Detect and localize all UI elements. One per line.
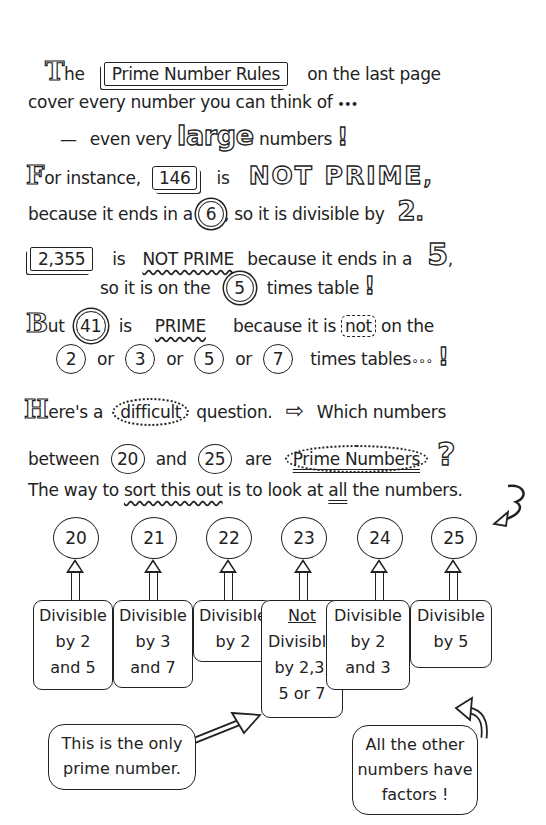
example-146: For instance, 146 is NOT PRIME, bbox=[26, 160, 432, 190]
number-146-box: 146 bbox=[152, 166, 198, 190]
arrow-up-icon bbox=[219, 559, 237, 573]
arrow-up-icon bbox=[66, 559, 84, 573]
curved-arrow-icon bbox=[486, 480, 534, 530]
times-tables-line: 2 or 3 or 5 or 7 times tables∘∘∘ ! bbox=[56, 343, 449, 374]
not-starburst: not bbox=[341, 315, 376, 337]
callout-others-factors: All the other numbers have factors ! bbox=[352, 725, 478, 815]
arrow-stem bbox=[71, 572, 80, 602]
table-2-circle: 2 bbox=[56, 344, 86, 374]
question-mark-icon: ? bbox=[437, 435, 455, 473]
number-20-circle: 20 bbox=[111, 444, 145, 474]
arrow-up-icon bbox=[444, 559, 462, 573]
intro-line-3: — even very large numbers ! bbox=[60, 120, 348, 151]
digit-5-circle: 5 bbox=[226, 274, 254, 302]
number-41-circle: 41 bbox=[76, 311, 106, 341]
ellipsis: ••• bbox=[338, 98, 358, 111]
callout-only-prime: This is the only prime number. bbox=[48, 724, 196, 790]
desc-box-21: Divisible by 3 and 7 bbox=[113, 600, 193, 688]
large-word: large bbox=[177, 120, 254, 151]
example-41: But 41 is PRIME because it is not on the bbox=[26, 308, 434, 341]
number-ball-25: 25 bbox=[431, 517, 477, 559]
prime-number-rules-box: Prime Number Rules bbox=[104, 62, 288, 86]
number-ball-22: 22 bbox=[206, 517, 252, 559]
question-line-1: Here's a difficult question. ⇨ Which num… bbox=[24, 394, 446, 424]
example-2355-reason: so it is on the 5 times table ! bbox=[100, 272, 375, 302]
arrow-stem bbox=[299, 572, 308, 602]
arrow-right-icon: ⇨ bbox=[286, 398, 304, 423]
desc-box-20: Divisible by 2 and 5 bbox=[33, 600, 113, 690]
arrow-stem bbox=[449, 572, 458, 602]
dash: — bbox=[60, 129, 77, 149]
table-3-circle: 3 bbox=[125, 344, 155, 374]
intro-line-2: cover every number you can think of ••• bbox=[28, 92, 358, 112]
arrow-up-icon bbox=[144, 559, 162, 573]
intro-line-1: The Prime Number Rules on the last page bbox=[45, 56, 441, 86]
number-ball-21: 21 bbox=[131, 517, 177, 559]
digit-6-circle: 6 bbox=[198, 201, 224, 227]
number-ball-20: 20 bbox=[53, 517, 99, 559]
arrow-stem bbox=[375, 572, 384, 602]
number-ball-23: 23 bbox=[281, 517, 327, 559]
arrow-up-icon bbox=[294, 559, 312, 573]
drop-cap-t: T bbox=[45, 56, 64, 86]
question-line-2: between 20 and 25 are Prime Numbers ? bbox=[28, 435, 455, 474]
desc-box-24: Divisible by 2 and 3 bbox=[326, 600, 410, 690]
prime-numbers-word: Prime Numbers bbox=[285, 445, 428, 473]
arrow-up-icon bbox=[370, 559, 388, 573]
not-prime-underlined: NOT PRIME bbox=[142, 249, 234, 269]
example-2355: 2,355 is NOT PRIME because it ends in a … bbox=[30, 237, 453, 272]
method-line: The way to sort this out is to look at a… bbox=[28, 480, 463, 500]
sort-this-out: sort this out bbox=[124, 480, 223, 500]
table-7-circle: 7 bbox=[263, 344, 293, 374]
number-2355-box: 2,355 bbox=[30, 247, 93, 271]
arrow-stem bbox=[224, 572, 233, 602]
number-ball-24: 24 bbox=[357, 517, 403, 559]
desc-box-25: Divisible by 5 bbox=[410, 600, 492, 668]
difficult-word: difficult bbox=[112, 398, 189, 426]
not-prime-label: NOT PRIME bbox=[249, 161, 424, 190]
table-5-circle: 5 bbox=[194, 344, 224, 374]
arrow-stem bbox=[149, 572, 158, 602]
example-146-reason: because it ends in a 6, so it is divisib… bbox=[28, 196, 423, 227]
number-25-circle: 25 bbox=[198, 444, 232, 474]
prime-underlined: PRIME bbox=[155, 316, 206, 336]
